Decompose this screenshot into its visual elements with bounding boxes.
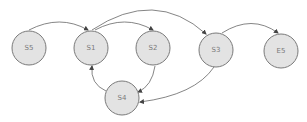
node-s5: S5	[12, 31, 46, 65]
edge-s3-s4	[140, 67, 214, 102]
edge-s2-s4	[138, 66, 155, 92]
node-s4: S4	[105, 81, 139, 115]
node-label: S2	[149, 44, 158, 52]
node-s3: S3	[199, 33, 233, 67]
node-e5: E5	[264, 34, 298, 68]
node-label: S5	[25, 44, 34, 52]
node-label: S1	[87, 44, 96, 52]
node-label: S3	[212, 46, 221, 54]
node-label: E5	[277, 47, 286, 55]
edge-s3-e5	[222, 24, 278, 34]
edge-s4-s1	[92, 66, 106, 91]
node-s1: S1	[74, 31, 108, 65]
edge-s1-s3	[92, 10, 206, 34]
state-diagram: S5 S1 S2 S3 E5 S4	[0, 0, 307, 122]
node-s2: S2	[136, 31, 170, 65]
node-label: S4	[118, 94, 127, 102]
edge-s5-s1	[29, 22, 88, 30]
